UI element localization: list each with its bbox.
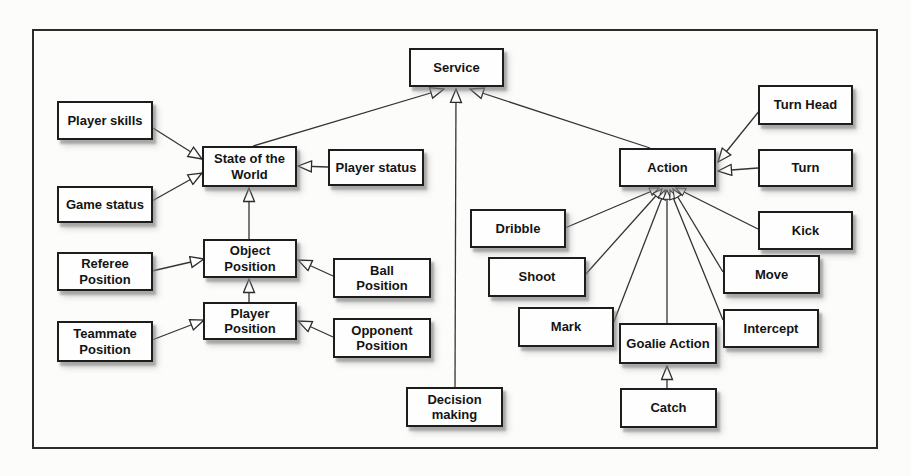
node-state-of-the-world: State of the World bbox=[202, 146, 297, 187]
node-game-status: Game status bbox=[57, 186, 153, 223]
node-decision-making: Decision making bbox=[406, 387, 503, 427]
node-teammate-position: Teammate Position bbox=[57, 321, 153, 362]
node-turn-head: Turn Head bbox=[758, 85, 853, 125]
node-player-position: Player Position bbox=[203, 302, 297, 340]
node-action: Action bbox=[619, 148, 716, 187]
node-catch: Catch bbox=[620, 388, 717, 428]
edge-action-to-service bbox=[470, 89, 650, 148]
diagram-canvas: Service Player skills State of the World… bbox=[0, 0, 911, 476]
node-kick: Kick bbox=[758, 211, 853, 250]
edge-shoot-to-action bbox=[585, 189, 662, 275]
edge-opponent-position-to-player-position bbox=[298, 321, 333, 337]
edge-intercept-to-action bbox=[670, 190, 723, 320]
node-move: Move bbox=[723, 255, 820, 294]
edge-referee-position-to-object-position bbox=[152, 259, 204, 271]
node-player-status: Player status bbox=[328, 149, 424, 186]
node-player-skills: Player skills bbox=[57, 101, 153, 140]
edge-mark-to-action bbox=[613, 190, 665, 324]
edge-state-of-the-world-to-service bbox=[253, 89, 444, 146]
node-dribble: Dribble bbox=[470, 209, 566, 248]
node-shoot: Shoot bbox=[488, 257, 586, 297]
edge-kick-to-action bbox=[676, 188, 758, 229]
node-service: Service bbox=[409, 48, 504, 87]
edge-decision-making-to-service bbox=[455, 89, 456, 388]
node-ball-position: Ball Position bbox=[333, 258, 431, 298]
edge-ball-position-to-object-position bbox=[298, 260, 333, 276]
node-object-position: Object Position bbox=[203, 239, 297, 278]
edge-turn-head-to-action bbox=[718, 110, 760, 162]
node-intercept: Intercept bbox=[723, 309, 819, 348]
node-opponent-position: Opponent Position bbox=[333, 318, 431, 358]
node-referee-position: Referee Position bbox=[57, 252, 153, 291]
node-turn: Turn bbox=[758, 149, 853, 187]
edge-teammate-position-to-player-position bbox=[152, 320, 204, 340]
node-goalie-action: Goalie Action bbox=[619, 323, 717, 364]
edge-turn-to-action bbox=[718, 168, 758, 171]
edge-game-status-to-state-of-the-world bbox=[152, 173, 202, 201]
edge-player-skills-to-state-of-the-world bbox=[153, 128, 202, 159]
node-mark: Mark bbox=[518, 307, 614, 347]
edge-player-status-to-state-of-the-world bbox=[298, 166, 328, 167]
